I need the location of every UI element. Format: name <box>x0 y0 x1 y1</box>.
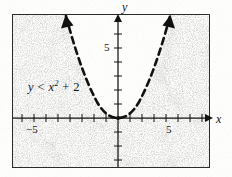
inequality-annotation: y < x2 + 2 <box>28 80 80 94</box>
x-tick-label-5: 5 <box>166 124 172 135</box>
inequality-lhs: y <box>28 80 34 94</box>
x-axis-label: x <box>216 113 221 125</box>
graph-figure: y x 5 −5 5 y < x2 + 2 <box>0 0 232 177</box>
vertex-point <box>116 116 120 120</box>
inequality-rhs-exponent: 2 <box>54 79 58 88</box>
inequality-rhs-tail: + 2 <box>62 80 80 94</box>
y-axis-label: y <box>122 1 127 13</box>
x-tick-label-negative-5: −5 <box>26 124 38 135</box>
inequality-operator: < <box>37 80 44 94</box>
y-tick-label-5: 5 <box>104 42 110 53</box>
